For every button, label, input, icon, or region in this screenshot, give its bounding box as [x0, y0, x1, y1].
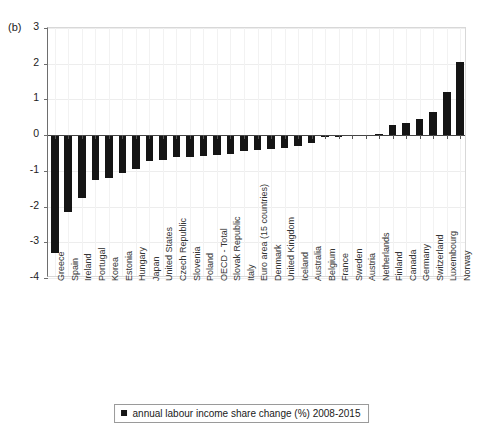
x-axis-category-label: Japan	[152, 256, 161, 281]
bar	[119, 135, 127, 173]
x-axis-tick	[379, 135, 380, 139]
zero-axis-line	[48, 135, 465, 136]
x-axis-tick	[312, 135, 313, 139]
y-axis-tick	[44, 207, 48, 208]
y-axis-tick	[44, 28, 48, 29]
gridline-vertical	[339, 28, 340, 276]
gridline-vertical	[393, 28, 394, 276]
x-axis-tick	[420, 135, 421, 139]
x-axis-tick	[163, 135, 164, 139]
x-axis-tick	[68, 135, 69, 139]
x-axis-tick	[109, 135, 110, 139]
gridline-horizontal	[48, 28, 465, 29]
x-axis-tick	[352, 135, 353, 139]
bar	[92, 135, 100, 180]
gridline-vertical	[271, 28, 272, 276]
bar-chart-plot-area	[47, 27, 466, 277]
bar	[51, 135, 59, 253]
bar	[105, 135, 113, 178]
x-axis-tick	[258, 135, 259, 139]
y-axis-tick-label: 2	[13, 56, 39, 68]
gridline-vertical	[298, 28, 299, 276]
gridline-horizontal	[48, 99, 465, 100]
x-axis-category-label: United Kingdom	[287, 217, 296, 281]
x-axis-tick	[271, 135, 272, 139]
y-axis-tick-label: 3	[13, 20, 39, 32]
x-axis-tick	[230, 135, 231, 139]
x-axis-category-label: Australia	[314, 246, 323, 281]
x-axis-category-label: Greece	[57, 251, 66, 281]
bar	[429, 112, 437, 135]
bar	[389, 125, 397, 135]
bar	[456, 62, 464, 135]
x-axis-tick	[447, 135, 448, 139]
y-axis-tick	[44, 242, 48, 243]
bar	[443, 92, 451, 135]
x-axis-category-label: Luxembourg	[449, 231, 458, 281]
x-axis-tick	[217, 135, 218, 139]
x-axis-category-label: Slovak Republic	[233, 216, 242, 281]
y-axis-tick-label: -3	[13, 234, 39, 246]
y-axis-tick	[44, 99, 48, 100]
gridline-horizontal	[48, 64, 465, 65]
bar	[159, 135, 167, 160]
x-axis-category-label: OECD - Total	[220, 228, 229, 281]
x-axis-category-label: Estonia	[125, 251, 134, 281]
chart-legend: annual labour income share change (%) 20…	[114, 404, 370, 423]
x-axis-tick	[203, 135, 204, 139]
x-axis-tick	[82, 135, 83, 139]
x-axis-tick	[433, 135, 434, 139]
figure-panel-b: (b) 3210-1-2-3-4 GreeceSpainIrelandPortu…	[0, 0, 483, 435]
x-axis-category-label: Euro area (15 countries)	[260, 184, 269, 281]
gridline-vertical	[406, 28, 407, 276]
x-axis-category-label: Iceland	[301, 252, 310, 281]
gridline-vertical	[379, 28, 380, 276]
bar	[132, 135, 140, 169]
x-axis-category-label: Sweden	[355, 248, 364, 281]
x-axis-category-label: Finland	[395, 251, 404, 281]
bar	[402, 123, 410, 136]
gridline-horizontal	[48, 207, 465, 208]
x-axis-category-label: Switzerland	[436, 234, 445, 281]
x-axis-tick	[55, 135, 56, 139]
x-axis-tick	[244, 135, 245, 139]
x-axis-category-label: Belgium	[328, 248, 337, 281]
y-axis-tick	[44, 278, 48, 279]
x-axis-tick	[298, 135, 299, 139]
y-axis-tick	[44, 64, 48, 65]
x-axis-category-label: Austria	[368, 253, 377, 281]
y-axis-tick	[44, 171, 48, 172]
x-axis-tick	[176, 135, 177, 139]
x-axis-tick	[366, 135, 367, 139]
bar	[146, 135, 154, 161]
x-axis-tick	[325, 135, 326, 139]
x-axis-tick	[339, 135, 340, 139]
gridline-vertical	[325, 28, 326, 276]
gridline-vertical	[312, 28, 313, 276]
x-axis-tick	[406, 135, 407, 139]
x-axis-tick	[460, 135, 461, 139]
x-axis-category-label: Canada	[409, 249, 418, 281]
x-axis-category-label: Germany	[422, 244, 431, 281]
x-axis-category-label: Netherlands	[382, 232, 391, 281]
bar	[78, 135, 86, 198]
x-axis-tick	[285, 135, 286, 139]
x-axis-category-label: Ireland	[84, 253, 93, 281]
x-axis-category-label: Denmark	[274, 244, 283, 281]
x-axis-category-label: Norway	[463, 250, 472, 281]
x-axis-category-label: Korea	[111, 257, 120, 281]
x-axis-category-label: Czech Republic	[179, 218, 188, 281]
gridline-vertical	[420, 28, 421, 276]
x-axis-tick	[190, 135, 191, 139]
x-axis-category-label: Portugal	[98, 247, 107, 281]
gridline-vertical	[244, 28, 245, 276]
x-axis-category-label: Spain	[71, 258, 80, 281]
y-axis-tick-label: -2	[13, 199, 39, 211]
gridline-horizontal	[48, 242, 465, 243]
gridline-vertical	[366, 28, 367, 276]
legend-swatch-icon	[121, 410, 127, 416]
y-axis-tick-label: 0	[13, 127, 39, 139]
y-axis-tick-label: 1	[13, 91, 39, 103]
bar	[416, 119, 424, 135]
x-axis-tick	[149, 135, 150, 139]
